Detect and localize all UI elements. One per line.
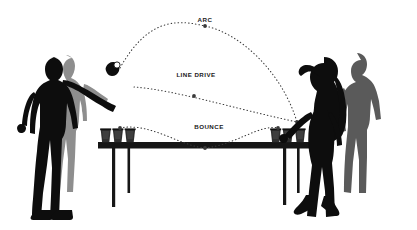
table-leg-2 — [128, 148, 131, 193]
figure-right-female-defender — [279, 57, 346, 217]
label-arc: ARC — [198, 17, 213, 23]
marker-bounce-end — [276, 126, 280, 130]
thrown-ball — [114, 62, 120, 68]
cups-left-group — [100, 128, 135, 142]
marker-line-drive-mid — [192, 94, 196, 98]
table-leg-3 — [283, 148, 286, 205]
cup — [100, 128, 111, 142]
beer-pong-table — [98, 142, 313, 207]
table-leg-1 — [112, 148, 115, 207]
marker-arc-apex — [203, 24, 207, 28]
cup — [112, 128, 123, 142]
marker-bounce-start — [118, 126, 122, 130]
diagram-canvas — [0, 0, 417, 230]
label-line-drive: LINE DRIVE — [176, 72, 215, 78]
beer-pong-diagram: ARC LINE DRIVE BOUNCE — [0, 0, 417, 230]
label-bounce: BOUNCE — [194, 124, 224, 130]
cup — [125, 128, 136, 142]
trajectory-line-drive — [134, 87, 297, 122]
table-leg-4 — [297, 148, 300, 193]
marker-bounce-point — [203, 146, 207, 150]
